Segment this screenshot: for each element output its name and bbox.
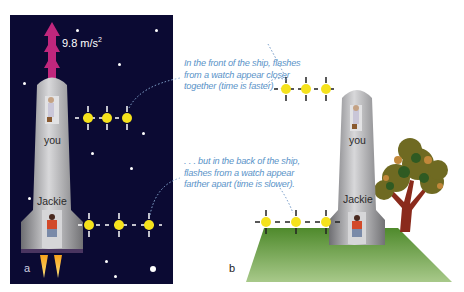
rocket-b-jackie-label: Jackie (343, 193, 373, 205)
panel-b-letter: b (229, 262, 235, 274)
rocket-b-you-label: you (349, 134, 366, 146)
panel-b-scene (0, 0, 464, 292)
